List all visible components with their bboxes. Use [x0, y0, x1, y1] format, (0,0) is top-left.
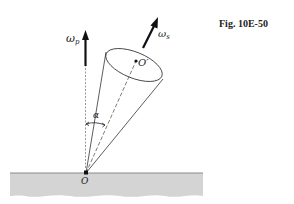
apex-point: [84, 171, 88, 175]
omega-s-label: ωs: [158, 28, 170, 41]
omega-p-arrowhead-icon: [82, 30, 89, 40]
apex-label: O: [81, 176, 88, 186]
center-label: O′: [138, 57, 148, 68]
figure-caption: Fig. 10E-50: [219, 18, 268, 29]
ground-surface: [10, 173, 203, 197]
angle-alpha-marker: [86, 122, 105, 127]
diagram-canvas: [0, 0, 294, 204]
precession-axis: [82, 30, 89, 168]
omega-s-arrowhead-icon: [151, 17, 159, 29]
omega-p-label: ωp: [66, 32, 79, 46]
cone: [86, 42, 167, 173]
angle-label: α: [93, 110, 99, 120]
spin-axis-arrow: [143, 17, 158, 48]
cone-precession-diagram: ωp ωs O′ α O Fig. 10E-50: [0, 0, 294, 204]
